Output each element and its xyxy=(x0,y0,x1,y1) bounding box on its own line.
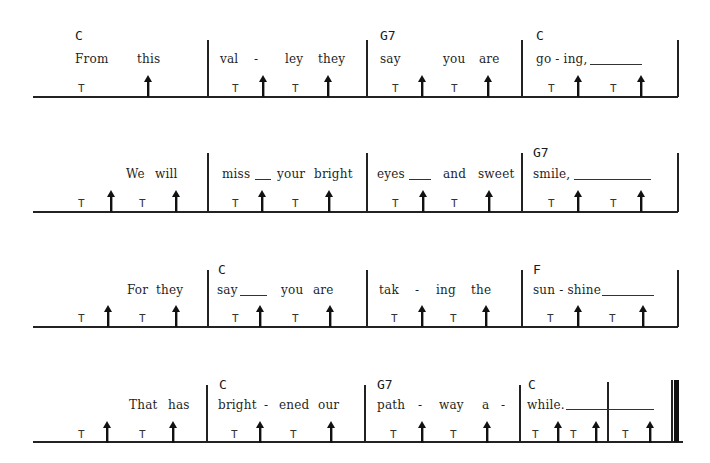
up-arrow-icon xyxy=(102,305,114,327)
lyric-syllable: That xyxy=(129,398,158,412)
thumb-stroke: T xyxy=(548,82,555,95)
lyric-syllable: you xyxy=(281,283,303,297)
up-arrow-icon xyxy=(644,421,656,443)
thumb-stroke: T xyxy=(570,428,577,441)
thumb-stroke: T xyxy=(232,312,239,325)
lyric-syllable: - xyxy=(254,52,258,66)
lyric-syllable: the xyxy=(471,283,491,297)
lyric-syllable: bright xyxy=(314,167,353,181)
thumb-stroke: T xyxy=(391,312,398,325)
thumb-stroke: T xyxy=(548,197,555,210)
system-1: C From this T val - ley they T T G7 say … xyxy=(0,0,710,110)
barline xyxy=(521,40,523,97)
up-arrow-icon xyxy=(254,421,266,443)
lyric-syllable: you xyxy=(443,52,465,66)
up-arrow-icon xyxy=(481,421,493,443)
lyric-syllable: your xyxy=(277,167,305,181)
thumb-stroke: T xyxy=(547,312,554,325)
up-arrow-icon xyxy=(552,421,564,443)
lyric-syllable: - xyxy=(418,398,422,412)
final-barline-thin xyxy=(671,380,673,442)
thumb-stroke: T xyxy=(392,82,399,95)
thumb-stroke: T xyxy=(610,197,617,210)
thumb-stroke: T xyxy=(390,428,397,441)
lyric-syllable: For xyxy=(127,283,148,297)
barline xyxy=(366,40,368,97)
lyric-syllable: smile, xyxy=(533,167,570,181)
lyric-extender-line xyxy=(240,295,267,296)
chord-symbol: C xyxy=(219,377,227,392)
lyric-syllable: say xyxy=(217,283,238,297)
up-arrow-icon xyxy=(323,190,335,212)
thumb-stroke: T xyxy=(78,82,85,95)
thumb-stroke: T xyxy=(292,82,299,95)
up-arrow-icon xyxy=(480,305,492,327)
lyric-syllable: - xyxy=(415,283,419,297)
lyric-syllable: bright xyxy=(218,398,257,412)
thumb-stroke: T xyxy=(231,428,238,441)
thumb-stroke: T xyxy=(610,82,617,95)
barline xyxy=(519,385,521,442)
lyric-syllable: path xyxy=(377,398,405,412)
up-arrow-icon xyxy=(572,75,584,97)
lyric-syllable: From xyxy=(75,52,108,66)
thumb-stroke: T xyxy=(450,312,457,325)
lyric-syllable: they xyxy=(318,52,345,66)
thumb-stroke: T xyxy=(292,197,299,210)
final-barline-thick xyxy=(674,380,679,442)
thumb-stroke: T xyxy=(451,82,458,95)
thumb-stroke: T xyxy=(139,312,146,325)
system-3: For they T T C say you are T T tak - ing… xyxy=(0,230,710,340)
up-arrow-icon xyxy=(483,190,495,212)
up-arrow-icon xyxy=(170,305,182,327)
thumb-stroke: T xyxy=(609,312,616,325)
lyric-extender-line xyxy=(602,295,654,296)
lyric-syllable: way xyxy=(439,398,464,412)
thumb-stroke: T xyxy=(232,82,239,95)
up-arrow-icon xyxy=(416,305,428,327)
lyric-syllable: eyes xyxy=(377,167,405,181)
thumb-stroke: T xyxy=(78,312,85,325)
lyric-extender-line xyxy=(255,179,271,180)
thumb-stroke: T xyxy=(450,428,457,441)
barline xyxy=(521,153,523,212)
barline xyxy=(207,153,209,212)
barline xyxy=(206,385,208,442)
up-arrow-icon xyxy=(322,75,334,97)
thumb-stroke: T xyxy=(622,428,629,441)
up-arrow-icon xyxy=(170,190,182,212)
chord-symbol: G7 xyxy=(377,377,393,392)
lyric-syllable: ened xyxy=(279,398,309,412)
up-arrow-icon xyxy=(635,190,647,212)
thumb-stroke: T xyxy=(78,197,85,210)
barline xyxy=(521,270,523,327)
chord-symbol: F xyxy=(533,262,541,277)
up-arrow-icon xyxy=(590,421,602,443)
system-2: We will T T miss your bright T T eyes an… xyxy=(0,115,710,225)
thumb-stroke: T xyxy=(139,428,146,441)
up-arrow-icon xyxy=(637,305,649,327)
up-arrow-icon xyxy=(101,421,113,443)
up-arrow-icon xyxy=(572,305,584,327)
up-arrow-icon xyxy=(257,75,269,97)
lyric-syllable: while. xyxy=(527,398,565,412)
lyric-syllable: sun - shine xyxy=(533,283,601,297)
lyric-syllable: has xyxy=(168,398,190,412)
chord-symbol: C xyxy=(528,377,536,392)
thumb-stroke: T xyxy=(78,428,85,441)
lyric-syllable: and xyxy=(443,167,466,181)
up-arrow-icon xyxy=(416,75,428,97)
lyric-extender-line xyxy=(574,179,651,180)
lyric-extender-line xyxy=(409,179,431,180)
lyric-syllable: ing xyxy=(436,283,456,297)
lyric-syllable: miss xyxy=(222,167,250,181)
barline xyxy=(364,385,366,442)
up-arrow-icon xyxy=(482,75,494,97)
barline xyxy=(207,40,209,97)
thumb-stroke: T xyxy=(292,312,299,325)
up-arrow-icon xyxy=(105,190,117,212)
lyric-syllable: We xyxy=(126,167,145,181)
barline xyxy=(207,270,209,327)
lyric-syllable: sweet xyxy=(478,167,514,181)
lyric-syllable: - xyxy=(264,398,268,412)
